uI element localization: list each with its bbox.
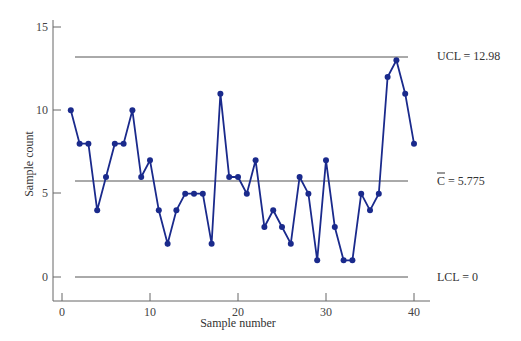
center-label: C = 5.775 [437,173,485,188]
data-point [367,207,373,213]
sample-count-points [68,57,417,263]
data-point [147,157,153,163]
data-point [297,174,303,180]
data-point [288,241,294,247]
data-point [165,241,171,247]
x-tick-label: 10 [144,305,156,319]
data-point [103,174,109,180]
data-point [244,191,250,197]
center-symbol: C = 5.775 [437,174,485,188]
data-point [77,141,83,147]
data-point [358,191,364,197]
x-tick-label: 30 [320,305,332,319]
data-point [85,141,91,147]
data-point [314,257,320,263]
data-point [68,107,74,113]
y-ticks: 15 10 5 0 [36,20,61,284]
data-point [191,191,197,197]
sample-count-line [71,60,414,260]
y-tick-label: 15 [36,20,48,34]
data-point [235,174,241,180]
data-point [253,157,259,163]
data-point [349,257,355,263]
data-point [200,191,206,197]
data-point [121,141,127,147]
data-point [129,107,135,113]
data-point [332,224,338,230]
data-point [173,207,179,213]
data-point [279,224,285,230]
data-point [376,191,382,197]
data-point [209,241,215,247]
y-axis-title: Sample count [22,131,36,197]
y-tick-label: 0 [42,270,48,284]
data-point [393,57,399,63]
data-point [270,207,276,213]
data-point [182,191,188,197]
data-point [323,157,329,163]
data-point [94,207,100,213]
data-point [341,257,347,263]
control-chart: 15 10 5 0 0 10 20 30 40 Sample number Sa… [0,0,521,341]
y-tick-label: 5 [42,186,48,200]
data-point [385,74,391,80]
data-point [156,207,162,213]
data-point [138,174,144,180]
data-point [411,141,417,147]
data-point [112,141,118,147]
data-point [226,174,232,180]
y-tick-label: 10 [36,103,48,117]
x-tick-label: 0 [59,305,65,319]
x-axis-title: Sample number [200,316,276,330]
data-point [261,224,267,230]
data-point [305,191,311,197]
x-tick-label: 40 [408,305,420,319]
data-point [402,91,408,97]
lcl-label: LCL = 0 [437,270,478,284]
data-point [217,91,223,97]
ucl-label: UCL = 12.98 [437,49,500,63]
